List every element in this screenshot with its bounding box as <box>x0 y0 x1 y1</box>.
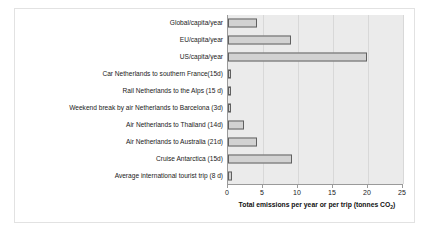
category-label: Car Netherlands to southern France(15d) <box>12 70 227 78</box>
category-label-row: Cruise Antarctica (15d) <box>8 150 227 167</box>
category-label: Rail Netherlands to the Alps (15 d) <box>12 87 227 95</box>
category-label: Air Netherlands to Australia (21d) <box>12 138 227 146</box>
x-axis: 0510152025 <box>227 185 403 201</box>
category-label-column: Global/capita/yearEU/capita/yearUS/capit… <box>8 15 227 184</box>
bar-row <box>228 116 403 133</box>
category-label-row: Car Netherlands to southern France(15d) <box>8 66 227 83</box>
bar <box>228 36 291 45</box>
bar-track <box>228 87 231 96</box>
bar-track <box>228 120 244 129</box>
category-label: Air Netherlands to Thailand (14d) <box>12 121 227 129</box>
bar-track <box>228 19 257 28</box>
x-tick-mark <box>367 185 368 188</box>
category-label-row: Global/capita/year <box>8 15 227 32</box>
x-axis-title-suffix: ) <box>393 201 395 208</box>
bar-track <box>228 53 367 62</box>
category-label-row: US/capita/year <box>8 49 227 66</box>
bar-row <box>228 167 403 184</box>
bar <box>228 137 257 146</box>
x-tick-mark <box>227 185 228 188</box>
bar <box>228 70 231 79</box>
x-tick-label: 5 <box>260 189 264 196</box>
category-label-row: Average international tourist trip (8 d) <box>8 167 227 184</box>
bar-row <box>228 133 403 150</box>
category-label-row: Weekend break by air Netherlands to Barc… <box>8 100 227 117</box>
bar <box>228 87 231 96</box>
gridline <box>403 15 404 184</box>
bar-track <box>228 171 232 180</box>
x-tick-label: 25 <box>398 189 406 196</box>
x-tick-label: 0 <box>225 189 229 196</box>
bar <box>228 120 244 129</box>
bar <box>228 53 367 62</box>
plot-area <box>227 15 403 185</box>
category-label: US/capita/year <box>12 53 227 61</box>
category-label-row: Rail Netherlands to the Alps (15 d) <box>8 83 227 100</box>
bar-row <box>228 49 403 66</box>
bar-row <box>228 150 403 167</box>
x-tick-label: 10 <box>293 189 301 196</box>
x-tick-mark <box>297 185 298 188</box>
x-tick-mark <box>262 185 263 188</box>
x-tick-mark <box>402 185 403 188</box>
bar-row <box>228 66 403 83</box>
x-axis-title: Total emissions per year or per trip (to… <box>227 201 407 208</box>
category-label: Global/capita/year <box>12 19 227 27</box>
x-axis-title-text: Total emissions per year or per trip (to… <box>239 201 391 208</box>
bar <box>228 154 292 163</box>
bar-row <box>228 83 403 100</box>
x-tick-label: 20 <box>363 189 371 196</box>
co2-subscript: 2 <box>390 204 393 210</box>
bar-row <box>228 32 403 49</box>
x-tick-mark <box>332 185 333 188</box>
bar-track <box>228 36 291 45</box>
category-label: EU/capita/year <box>12 36 227 44</box>
bar-track <box>228 154 292 163</box>
emissions-bar-chart: Global/capita/yearEU/capita/yearUS/capit… <box>0 0 439 235</box>
bar-row <box>228 15 403 32</box>
category-label: Cruise Antarctica (15d) <box>12 155 227 163</box>
bar-track <box>228 70 231 79</box>
bar <box>228 171 232 180</box>
bar <box>228 103 231 112</box>
category-label-row: EU/capita/year <box>8 32 227 49</box>
x-tick-label: 15 <box>328 189 336 196</box>
category-label-row: Air Netherlands to Australia (21d) <box>8 133 227 150</box>
bar-row <box>228 100 403 117</box>
bar <box>228 19 257 28</box>
category-label: Average international tourist trip (8 d) <box>12 172 227 180</box>
bar-track <box>228 137 257 146</box>
category-label: Weekend break by air Netherlands to Barc… <box>12 104 227 112</box>
category-label-row: Air Netherlands to Thailand (14d) <box>8 116 227 133</box>
bar-track <box>228 103 231 112</box>
